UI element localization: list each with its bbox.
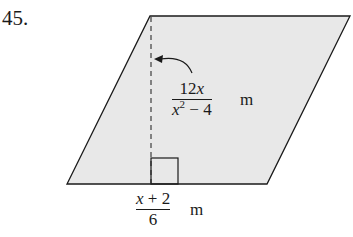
denominator-base: x [172, 100, 180, 119]
height-denominator: x2 − 4 [172, 101, 212, 119]
base-label: x + 2 6 [136, 190, 170, 229]
height-label: 12x x2 − 4 [172, 80, 212, 119]
base-unit: m [190, 200, 203, 220]
height-numerator-text: 12x [180, 79, 205, 98]
height-unit: m [240, 90, 253, 110]
height-numerator: 12x [180, 80, 205, 98]
problem-number: 45. [2, 6, 28, 31]
denominator-rest: − 4 [185, 100, 212, 119]
base-denominator: 6 [149, 211, 158, 229]
base-numerator: x + 2 [136, 190, 170, 208]
